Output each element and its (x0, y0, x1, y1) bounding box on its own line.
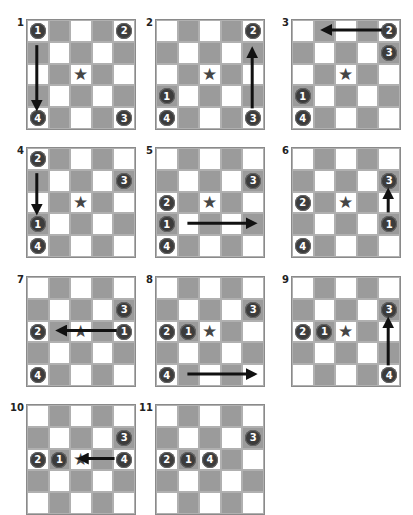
board-cell (113, 213, 135, 235)
board-cell (70, 42, 92, 64)
piece-3: 3 (245, 173, 261, 189)
step-number-label: 3 (282, 17, 289, 28)
board-cell (156, 170, 178, 192)
board-cell (357, 342, 379, 364)
board-cell (314, 299, 336, 321)
board-cell (242, 192, 264, 214)
board-cell (314, 364, 336, 386)
board-cell (221, 148, 243, 170)
board-cell (221, 170, 243, 192)
board-cell (335, 170, 357, 192)
board-cell (49, 342, 71, 364)
board-cell (242, 148, 264, 170)
board-cell (242, 470, 264, 492)
board-cell (178, 42, 200, 64)
board-cell (70, 213, 92, 235)
board-cell (49, 64, 71, 86)
board-cell (199, 235, 221, 257)
board-cell (199, 299, 221, 321)
board-cell (70, 85, 92, 107)
board-cell (49, 364, 71, 386)
board-cell (335, 107, 357, 129)
board-cell (335, 342, 357, 364)
board-cell (156, 427, 178, 449)
board-cell (292, 364, 314, 386)
piece-2: 2 (30, 324, 46, 340)
board-cell (292, 64, 314, 86)
piece-4: 4 (159, 367, 175, 383)
board-cell (70, 299, 92, 321)
board-cell (199, 148, 221, 170)
board-cell (113, 42, 135, 64)
board-cell (49, 85, 71, 107)
board-cell (335, 85, 357, 107)
board-cell (27, 277, 49, 299)
board-cell (113, 235, 135, 257)
piece-3: 3 (381, 302, 397, 318)
board-cell (335, 277, 357, 299)
board-cell (49, 192, 71, 214)
board-cell (378, 192, 400, 214)
board-cell (221, 107, 243, 129)
board-cell (178, 427, 200, 449)
board-cell (49, 107, 71, 129)
piece-4: 4 (202, 452, 218, 468)
piece-1: 1 (159, 216, 175, 232)
board-cell (199, 170, 221, 192)
board-cell (49, 148, 71, 170)
board-step-11: 3214 (155, 404, 265, 515)
board-cell (92, 449, 114, 471)
piece-2: 2 (159, 452, 175, 468)
board-cell (357, 170, 379, 192)
board-cell (156, 342, 178, 364)
board-cell (156, 405, 178, 427)
board-cell (92, 170, 114, 192)
board-cell (27, 192, 49, 214)
board-cell (314, 277, 336, 299)
board-cell (156, 277, 178, 299)
board-cell (178, 470, 200, 492)
piece-1: 1 (316, 324, 332, 340)
piece-1: 1 (180, 452, 196, 468)
board-cell (92, 213, 114, 235)
piece-4: 4 (30, 238, 46, 254)
board-cell (314, 85, 336, 107)
board-cell (113, 470, 135, 492)
board-cell (314, 64, 336, 86)
board-cell (199, 364, 221, 386)
piece-1: 1 (295, 88, 311, 104)
board-cell (357, 364, 379, 386)
piece-2: 2 (30, 452, 46, 468)
board-cell (70, 148, 92, 170)
board-cell (378, 235, 400, 257)
board-cell (292, 42, 314, 64)
board-cell (49, 235, 71, 257)
board-cell (357, 299, 379, 321)
board-cell (199, 427, 221, 449)
star-icon: ★ (70, 451, 91, 468)
board-cell (92, 20, 114, 42)
board-cell (49, 20, 71, 42)
piece-2: 2 (295, 195, 311, 211)
board-cell (70, 342, 92, 364)
board-cell (292, 299, 314, 321)
board-cell (27, 85, 49, 107)
board-cell (199, 42, 221, 64)
step-number-label: 1 (17, 17, 24, 28)
board-cell (292, 170, 314, 192)
piece-4: 4 (159, 110, 175, 126)
piece-3: 3 (245, 430, 261, 446)
board-cell (314, 342, 336, 364)
star-icon: ★ (70, 66, 91, 83)
board-cell (27, 492, 49, 514)
board-cell (178, 235, 200, 257)
board-cell (178, 405, 200, 427)
board-cell (242, 213, 264, 235)
board-cell (156, 492, 178, 514)
board-cell (70, 427, 92, 449)
board-step-4: ★2314 (26, 147, 136, 258)
board-cell (221, 20, 243, 42)
board-cell (92, 148, 114, 170)
step-number-label: 7 (17, 274, 24, 285)
board-cell (70, 364, 92, 386)
